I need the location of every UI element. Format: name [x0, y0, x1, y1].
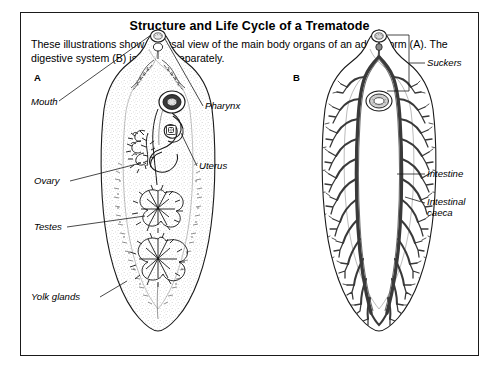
label-intestinal-caeca-line2: caeca [427, 208, 465, 219]
panel-letter-b: B [293, 72, 300, 83]
label-yolk-glands: Yolk glands [31, 292, 80, 303]
panel-a-illustration [59, 30, 215, 331]
panel-b-illustration [321, 30, 437, 331]
label-intestinal-caeca: Intestinal caeca [427, 197, 465, 218]
panel-letter-a: A [34, 72, 41, 83]
label-ovary: Ovary [34, 176, 60, 187]
label-intestinal-caeca-line1: Intestinal [427, 197, 465, 208]
label-suckers: Suckers [427, 58, 462, 69]
label-mouth: Mouth [31, 97, 58, 108]
label-testes: Testes [34, 222, 62, 233]
label-uterus: Uterus [199, 161, 227, 172]
figure-title: Structure and Life Cycle of a Trematode [21, 19, 478, 33]
label-intestine: Intestine [427, 169, 463, 180]
panel-a-leader-lines [59, 35, 203, 297]
figure-frame: Structure and Life Cycle of a Trematode … [20, 12, 479, 356]
label-pharynx: Pharynx [205, 101, 240, 112]
figure-caption: These illustrations show a dorsal view o… [31, 38, 469, 65]
